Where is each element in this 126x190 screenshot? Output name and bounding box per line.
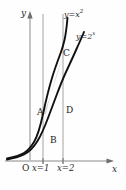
x-axis-arrowhead	[107, 158, 115, 163]
x-axis-label: x	[112, 165, 117, 174]
y-axis-label: y	[21, 9, 26, 18]
point-label-c: C	[63, 49, 70, 58]
y-axis-arrowhead	[27, 11, 32, 19]
origin-label: O	[22, 164, 29, 173]
tick-label-x-2: x=2	[57, 164, 74, 173]
curve-label-parabola-base: y=x	[64, 10, 80, 19]
curve-label-parabola-exponent: 2	[80, 8, 83, 14]
point-label-a: A	[37, 108, 44, 117]
curve-label-exponential-exponent: x	[92, 30, 95, 36]
curve-label-exponential: y=2x	[76, 33, 95, 41]
point-label-d: D	[66, 106, 73, 115]
math-figure: y x O x=1 x=2 y=x2 y=2x A B C D	[0, 0, 126, 190]
tick-label-x-1: x=1	[32, 164, 49, 173]
curve-label-parabola: y=x2	[64, 11, 83, 19]
point-label-b: B	[50, 136, 57, 145]
curve-exponential	[7, 32, 84, 160]
curve-label-exponential-base: y=2	[76, 32, 92, 41]
figure-canvas	[0, 0, 126, 190]
